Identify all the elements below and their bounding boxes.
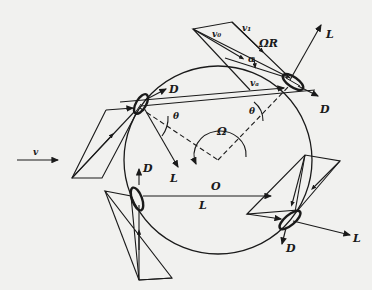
radius-dashed-right	[218, 85, 290, 160]
label-omega-r: ΩR	[258, 37, 278, 50]
label-theta-right: θ	[249, 106, 255, 116]
label-lift-top-left: L	[169, 172, 178, 185]
turbine-diagram: v O Ω ΩR v₁ v₀ vₐ α θ θ D L L D D L L D	[0, 0, 372, 290]
label-lift-bottom-right: L	[352, 232, 361, 245]
label-va: vₐ	[250, 78, 259, 88]
label-lift-left: L	[198, 199, 207, 212]
label-lift-top-right: L	[325, 28, 334, 41]
label-drag-top-left: D	[168, 83, 179, 96]
lift-arrow-bottom-right	[293, 221, 350, 235]
label-omega: Ω	[216, 125, 227, 138]
label-drag-top-right: D	[319, 103, 330, 116]
lift-arrow-top-right	[290, 25, 321, 80]
label-v0: v₀	[212, 29, 221, 39]
label-freestream-v: v	[33, 147, 39, 157]
velocity-triangle-bottom-right	[247, 155, 340, 214]
label-drag-bottom-right: D	[285, 242, 296, 255]
label-theta-left: θ	[173, 111, 179, 121]
label-alpha: α	[248, 54, 255, 64]
theta-arc-left	[162, 116, 168, 136]
label-center-o: O	[211, 180, 221, 193]
label-drag-left: D	[142, 162, 153, 175]
label-v1: v₁	[242, 23, 251, 33]
